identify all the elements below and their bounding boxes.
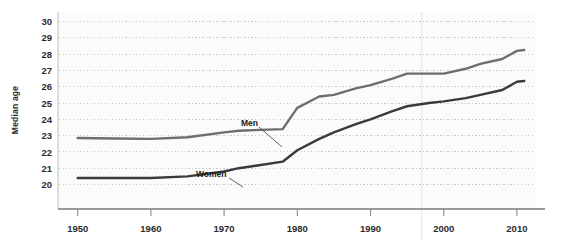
y-axis-title: Median age [10, 86, 20, 134]
y-tick-label: 27 [41, 65, 52, 76]
y-tick-label: 29 [41, 32, 52, 43]
y-tick-label: 25 [41, 98, 52, 109]
y-tick-label: 30 [41, 16, 52, 27]
median-age-line-chart: 2021222324252627282930 19501960197019801… [0, 0, 565, 249]
y-tick-label: 24 [41, 114, 52, 125]
series-annotation-label: Women [196, 169, 227, 179]
y-tick-label: 20 [41, 179, 52, 190]
x-tick-label: 1990 [360, 223, 381, 234]
x-tick-label: 2010 [506, 223, 527, 234]
y-tick-label: 21 [41, 163, 52, 174]
x-tick-label: 1950 [67, 223, 88, 234]
x-tick-label: 1960 [140, 223, 161, 234]
y-tick-label: 23 [41, 130, 52, 141]
y-tick-label: 28 [41, 49, 52, 60]
x-tick-label: 1970 [214, 223, 235, 234]
x-tick-label: 2000 [433, 223, 454, 234]
x-tick-label: 1980 [287, 223, 308, 234]
series-annotation-label: Men [241, 118, 258, 128]
chart-container: 2021222324252627282930 19501960197019801… [0, 0, 565, 249]
y-tick-label: 26 [41, 81, 52, 92]
y-tick-labels-group: 2021222324252627282930 [41, 16, 52, 190]
y-tick-label: 22 [41, 147, 52, 158]
